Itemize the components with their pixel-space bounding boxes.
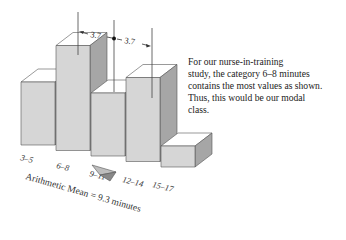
- mean-point-icon: [112, 37, 116, 41]
- category-label: 3–5: [19, 152, 35, 165]
- caption-line: Thus, this would be our modal: [188, 92, 344, 104]
- bar-front-0: [21, 82, 55, 145]
- histogram-bars: [21, 33, 212, 168]
- category-label: 6–8: [56, 160, 72, 173]
- category-label: 12–14: [122, 174, 146, 189]
- caption-line: class.: [188, 104, 344, 116]
- distance-right-label: 3.7: [124, 35, 136, 47]
- category-label: 15–17: [152, 179, 176, 194]
- bar-front-2: [91, 93, 125, 156]
- caption-line: For our nurse-in-training: [188, 56, 344, 68]
- distance-left-label: 3.7: [90, 29, 102, 41]
- bar-front-3: [126, 78, 160, 162]
- bar-front-4: [161, 146, 195, 167]
- arrow-right-icon: [146, 44, 151, 48]
- caption-line: study, the category 6–8 minutes: [188, 68, 344, 80]
- caption-text: For our nurse-in-trainingstudy, the cate…: [188, 56, 344, 116]
- bar-front-1: [56, 46, 90, 151]
- caption-line: contains the most values as shown.: [188, 80, 344, 92]
